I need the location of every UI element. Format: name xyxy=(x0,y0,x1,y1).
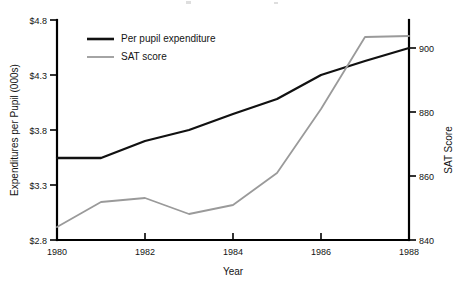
left-tick-label: $3.8 xyxy=(29,126,47,136)
x-tick-label: 1982 xyxy=(135,247,155,257)
right-tick-label: 880 xyxy=(419,108,434,118)
y2-axis-title: SAT Score xyxy=(443,126,454,174)
chart-container: $4.8 $4.3 $3.8 $3.3 $2.8 900 880 860 840… xyxy=(0,0,462,284)
x-tick-label: 1984 xyxy=(223,247,243,257)
series-line-per-pupil-expenditure xyxy=(57,48,409,158)
axis-bottom xyxy=(57,233,409,240)
right-tick-label: 900 xyxy=(419,44,434,54)
left-axis-tick-labels: $4.8 $4.3 $3.8 $3.3 $2.8 xyxy=(29,16,47,246)
x-axis-title: Year xyxy=(223,266,244,277)
left-tick-label: $4.3 xyxy=(29,71,47,81)
right-axis-tick-labels: 900 880 860 840 xyxy=(419,44,434,246)
left-tick-label: $4.8 xyxy=(29,16,47,26)
right-tick-label: 860 xyxy=(419,172,434,182)
legend-label-per-pupil-expenditure: Per pupil expenditure xyxy=(121,33,216,44)
axis-left xyxy=(50,20,57,240)
legend-label-sat-score: SAT score xyxy=(121,51,167,62)
y-axis-title: Expenditures per Pupil (000s) xyxy=(9,64,20,196)
x-tick-label: 1980 xyxy=(47,247,67,257)
x-tick-label: 1986 xyxy=(311,247,331,257)
x-axis-tick-labels: 1980 1982 1984 1986 1988 xyxy=(47,247,419,257)
left-tick-label: $2.8 xyxy=(29,236,47,246)
right-tick-label: 840 xyxy=(419,236,434,246)
dual-axis-line-chart: $4.8 $4.3 $3.8 $3.3 $2.8 900 880 860 840… xyxy=(0,0,462,284)
left-tick-label: $3.3 xyxy=(29,181,47,191)
legend: Per pupil expenditure SAT score xyxy=(87,33,216,62)
axis-right xyxy=(409,20,416,240)
scan-artifacts xyxy=(186,1,278,4)
x-tick-label: 1988 xyxy=(399,247,419,257)
